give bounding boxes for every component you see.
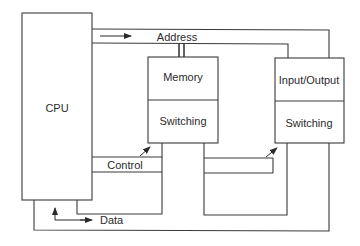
memory-switching-label: Switching xyxy=(159,115,206,127)
address-bus-inner xyxy=(92,43,288,58)
io-block xyxy=(275,58,344,143)
io-switching-label: Switching xyxy=(285,117,332,129)
io-label: Input/Output xyxy=(279,74,340,86)
data-bus-outer xyxy=(34,143,329,231)
data-bus-inner xyxy=(77,172,162,214)
cpu-memory-io-block-diagram: CPU Memory Switching Input/Output Switch… xyxy=(0,0,360,246)
memory-switch-loop xyxy=(204,143,287,215)
data-bus-label: Data xyxy=(100,214,123,226)
memory-block xyxy=(148,57,218,143)
control-to-io-arrow xyxy=(266,148,277,157)
address-bus-label: Address xyxy=(157,31,197,43)
control-bus-label: Control xyxy=(107,159,142,171)
control-bus-left xyxy=(92,143,162,157)
memory-label: Memory xyxy=(163,71,203,83)
cpu-label: CPU xyxy=(45,102,68,114)
control-to-memory-arrow xyxy=(140,147,150,156)
